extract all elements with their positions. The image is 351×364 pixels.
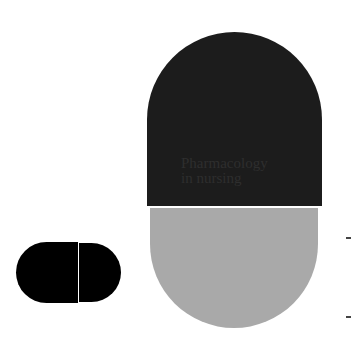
small-capsule-right-half <box>79 243 121 302</box>
small-capsule-left-half <box>16 242 78 303</box>
edge-tick-mark <box>346 237 351 239</box>
large-capsule-top-half: Pharmacology in nursing <box>147 32 322 206</box>
edge-tick-mark <box>346 316 351 318</box>
title-line-2: in nursing <box>181 171 268 186</box>
small-capsule-icon <box>16 242 121 303</box>
book-title: Pharmacology in nursing <box>181 156 268 186</box>
title-line-1: Pharmacology <box>181 156 268 171</box>
large-capsule-bottom-half <box>150 208 318 328</box>
